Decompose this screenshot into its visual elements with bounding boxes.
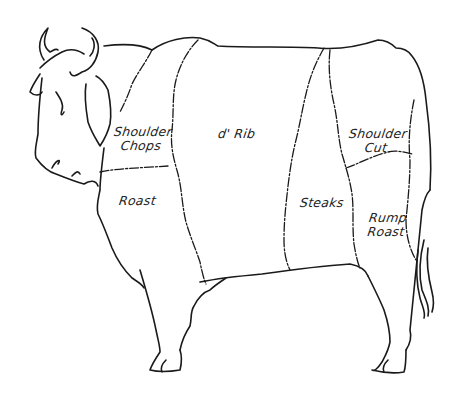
cow-outline-drawing: [0, 0, 456, 394]
cut-label-line: Shoulder: [113, 125, 173, 139]
cut-label-d-rib: d' Rib: [217, 127, 256, 141]
cut-label-line: Roast: [118, 194, 157, 208]
cut-label-rump-roast: Rump Roast: [366, 211, 408, 239]
cut-label-line: Steaks: [299, 196, 345, 210]
cut-label-line: Rump: [368, 211, 408, 225]
cut-divider-lines: [100, 40, 416, 284]
cut-label-shoulder-chops: Shoulder Chops: [111, 125, 173, 153]
cut-label-line: Cut: [346, 141, 406, 155]
beef-cuts-diagram: Shoulder Chops Roast d' Rib Steaks Shoul…: [0, 0, 456, 394]
cut-label-line: Shoulder: [348, 127, 408, 141]
cut-label-line: d' Rib: [217, 127, 256, 141]
cut-label-shoulder-cut: Shoulder Cut: [346, 127, 408, 155]
cut-label-line: Roast: [366, 225, 406, 239]
cut-label-line: Chops: [111, 139, 171, 153]
cow-body-outline: [30, 28, 434, 373]
cut-label-roast: Roast: [118, 194, 157, 208]
cut-label-steaks: Steaks: [299, 196, 345, 210]
